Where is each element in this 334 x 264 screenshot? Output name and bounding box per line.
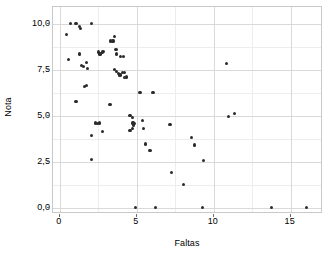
x-tick-mark bbox=[136, 214, 137, 217]
data-point bbox=[74, 22, 77, 25]
gridline-horizontal bbox=[53, 24, 321, 25]
data-point bbox=[270, 206, 273, 209]
y-tick-mark bbox=[47, 23, 50, 24]
x-tick-mark bbox=[213, 214, 214, 217]
data-point bbox=[113, 35, 116, 38]
x-tick-label: 10 bbox=[198, 216, 228, 226]
y-tick-label: 5,0 bbox=[16, 110, 50, 120]
gridline-horizontal-minor bbox=[53, 139, 321, 140]
y-tick-label: 0,0 bbox=[16, 202, 50, 212]
data-point bbox=[85, 84, 88, 87]
data-point bbox=[148, 149, 151, 152]
data-point bbox=[168, 123, 171, 126]
data-point bbox=[121, 71, 124, 74]
plot-panel bbox=[52, 6, 322, 213]
gridline-horizontal bbox=[53, 162, 321, 163]
scatter-chart: Nota 0,02,55,07,510,0 051015 Faltas bbox=[0, 0, 334, 264]
y-tick-mark bbox=[47, 207, 50, 208]
data-point bbox=[133, 122, 136, 125]
data-point bbox=[182, 183, 185, 186]
data-point bbox=[170, 171, 173, 174]
data-point bbox=[201, 206, 204, 209]
gridline-horizontal bbox=[53, 70, 321, 71]
gridline-horizontal bbox=[53, 116, 321, 117]
data-point bbox=[69, 22, 72, 25]
data-point bbox=[111, 39, 114, 42]
data-point bbox=[65, 33, 68, 36]
data-point bbox=[79, 27, 82, 30]
x-tick-mark bbox=[290, 214, 291, 217]
data-point bbox=[225, 62, 228, 65]
x-tick-mark bbox=[59, 214, 60, 217]
data-point bbox=[138, 91, 141, 94]
data-point bbox=[193, 143, 196, 146]
data-point bbox=[144, 142, 147, 145]
data-point bbox=[142, 127, 145, 130]
gridline-horizontal-minor bbox=[53, 93, 321, 94]
gridline-vertical-minor bbox=[98, 7, 99, 212]
y-axis-tick-labels: 0,02,55,07,510,0 bbox=[12, 0, 50, 213]
gridline-vertical bbox=[60, 7, 61, 212]
data-point bbox=[154, 206, 157, 209]
data-point bbox=[78, 52, 81, 55]
data-point bbox=[90, 22, 93, 25]
y-tick-label: 10,0 bbox=[16, 18, 50, 28]
gridline-vertical bbox=[214, 7, 215, 212]
data-point bbox=[151, 91, 154, 94]
data-point bbox=[108, 103, 111, 106]
data-point bbox=[131, 127, 134, 130]
data-point bbox=[114, 48, 117, 51]
data-point bbox=[115, 52, 118, 55]
data-point bbox=[82, 65, 85, 68]
y-tick-label: 2,5 bbox=[16, 156, 50, 166]
data-point bbox=[305, 206, 308, 209]
y-tick-mark bbox=[47, 115, 50, 116]
data-point bbox=[131, 116, 134, 119]
data-point bbox=[134, 206, 137, 209]
data-point bbox=[125, 75, 128, 78]
x-tick-label: 5 bbox=[121, 216, 151, 226]
x-axis-title: Faltas bbox=[52, 238, 322, 248]
y-tick-label: 7,5 bbox=[16, 64, 50, 74]
gridline-vertical-minor bbox=[252, 7, 253, 212]
data-point bbox=[74, 100, 77, 103]
x-axis-tick-labels: 051015 bbox=[0, 214, 334, 230]
data-point bbox=[102, 50, 105, 53]
y-tick-mark bbox=[47, 69, 50, 70]
gridline-vertical bbox=[137, 7, 138, 212]
gridline-vertical bbox=[291, 7, 292, 212]
data-point bbox=[227, 115, 230, 118]
data-point bbox=[67, 58, 70, 61]
data-point bbox=[141, 119, 144, 122]
x-tick-label: 15 bbox=[275, 216, 305, 226]
data-point bbox=[122, 55, 125, 58]
data-point bbox=[90, 134, 93, 137]
y-tick-mark bbox=[47, 161, 50, 162]
gridline-vertical-minor bbox=[175, 7, 176, 212]
data-point bbox=[98, 121, 101, 124]
gridline-horizontal-minor bbox=[53, 185, 321, 186]
x-tick-label: 0 bbox=[44, 216, 74, 226]
data-point bbox=[85, 61, 88, 64]
gridline-horizontal-minor bbox=[53, 47, 321, 48]
gridline-horizontal bbox=[53, 208, 321, 209]
data-point bbox=[118, 73, 121, 76]
data-point bbox=[101, 130, 104, 133]
